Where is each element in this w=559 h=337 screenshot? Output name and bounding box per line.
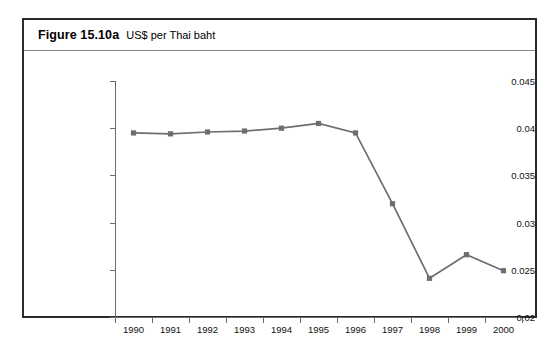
x-axis-tick [300, 318, 301, 323]
series-marker [316, 121, 321, 126]
figure-frame: Figure 15.10a US$ per Thai baht 0.020.02… [22, 18, 537, 318]
figure-caption: US$ per Thai baht [126, 29, 215, 41]
series-line [134, 123, 504, 278]
x-axis-tick [448, 318, 449, 323]
x-axis-tick [522, 318, 523, 323]
chart-plot-area: 0.020.0250.030.0350.040.045 199019911992… [24, 51, 535, 316]
series-marker [205, 129, 210, 134]
x-axis-tick [374, 318, 375, 323]
x-axis-tick-label: 1999 [456, 324, 477, 335]
x-axis-tick [337, 318, 338, 323]
x-axis-tick-label: 2000 [493, 324, 514, 335]
figure-number: Figure 15.10a [38, 28, 119, 42]
figure-header: Figure 15.10a US$ per Thai baht [24, 20, 535, 51]
series-marker [501, 268, 506, 273]
x-axis-tick [189, 318, 190, 323]
x-axis-tick-label: 1993 [234, 324, 255, 335]
x-axis-tick-label: 1998 [419, 324, 440, 335]
x-axis-tick-label: 1996 [345, 324, 366, 335]
series-markers [131, 121, 506, 281]
series-marker [353, 130, 358, 135]
series-marker [464, 252, 469, 257]
x-axis-tick [226, 318, 227, 323]
x-axis-tick-label: 1994 [271, 324, 292, 335]
series-graphic [24, 51, 535, 316]
x-axis-tick-label: 1990 [123, 324, 144, 335]
x-axis-tick [485, 318, 486, 323]
series-marker [279, 126, 284, 131]
series-marker [390, 201, 395, 206]
x-axis-tick [115, 318, 116, 323]
x-axis-tick-label: 1992 [197, 324, 218, 335]
series-marker [168, 131, 173, 136]
x-axis-tick [152, 318, 153, 323]
x-axis-tick-label: 1997 [382, 324, 403, 335]
series-marker [242, 128, 247, 133]
x-axis-tick [263, 318, 264, 323]
series-marker [131, 130, 136, 135]
x-axis-tick-label: 1995 [308, 324, 329, 335]
x-axis-tick-label: 1991 [160, 324, 181, 335]
x-axis-tick [411, 318, 412, 323]
series-marker [427, 276, 432, 281]
